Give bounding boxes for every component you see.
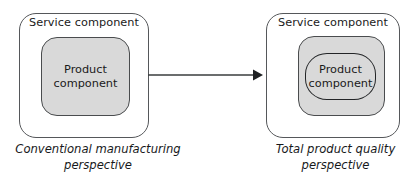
- product-label-line1-left: Product: [54, 63, 118, 76]
- right-diagram-panel: Service component Product component: [266, 13, 400, 138]
- caption-left-line2: perspective: [0, 158, 196, 174]
- product-component-label-left: Product component: [54, 63, 118, 90]
- product-label-line2-left: component: [54, 77, 118, 90]
- service-component-label-left: Service component: [19, 16, 149, 29]
- caption-right-line1: Total product quality: [252, 142, 419, 158]
- service-component-label-right: Service component: [266, 16, 400, 29]
- caption-right-line2: perspective: [252, 158, 419, 174]
- product-label-line1-right: Product: [309, 63, 373, 76]
- product-component-box-right: Product component: [305, 53, 376, 100]
- caption-left: Conventional manufacturing perspective: [0, 142, 196, 173]
- product-component-label-right: Product component: [309, 63, 373, 90]
- flow-arrow: [148, 60, 268, 90]
- product-label-line2-right: component: [309, 77, 373, 90]
- arrow-right-icon: [148, 60, 268, 90]
- diagram-canvas: Service component Product component Serv…: [0, 0, 419, 188]
- caption-left-line1: Conventional manufacturing: [0, 142, 196, 158]
- product-component-box-left: Product component: [41, 37, 130, 116]
- left-diagram-panel: Service component Product component: [19, 13, 149, 138]
- caption-right: Total product quality perspective: [252, 142, 419, 173]
